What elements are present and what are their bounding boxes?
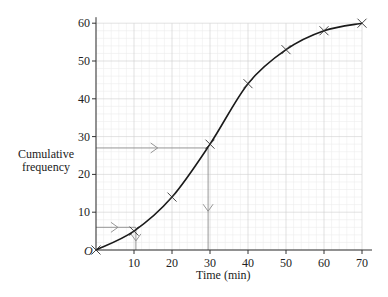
x-tick-label: 20	[166, 256, 178, 270]
y-tick-label: 30	[78, 130, 90, 144]
y-tick-label: 40	[78, 92, 90, 106]
y-axis-label: Cumulative frequency	[6, 148, 86, 174]
x-tick-label: 50	[280, 256, 292, 270]
major-gridlines	[96, 23, 362, 250]
x-tick-label: 70	[356, 256, 368, 270]
x-axis-label: Time (min)	[196, 268, 251, 283]
x-tick-label: 60	[318, 256, 330, 270]
axis-ticks: 10203040506070102030405060	[78, 16, 368, 270]
y-tick-label: 60	[78, 16, 90, 30]
y-tick-label: 10	[78, 205, 90, 219]
origin-label: O	[84, 244, 93, 258]
cumulative-frequency-chart: 10203040506070102030405060 O Cumulative …	[0, 0, 388, 297]
axes	[96, 17, 372, 250]
x-tick-label: 10	[128, 256, 140, 270]
y-tick-label: 50	[78, 54, 90, 68]
